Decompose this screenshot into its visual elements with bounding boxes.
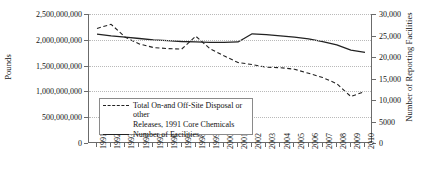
y-axis-left-tickmark [84, 143, 88, 144]
legend-item-label-line2: Releases, 1991 Core Chemicals [133, 120, 249, 129]
y-axis-right-title: Number of Reporting Facilities [404, 9, 414, 125]
dashed-line-icon [103, 101, 129, 110]
x-axis-tickmark [350, 143, 351, 147]
y-axis-right-tick-label: 30,000 [379, 10, 401, 19]
x-axis-tickmark [209, 143, 210, 147]
x-axis-tickmark [251, 143, 252, 147]
x-axis-tickmark [195, 143, 196, 147]
x-axis-tick-label: 2009 [353, 133, 362, 149]
x-axis-tickmark [322, 143, 323, 147]
legend-item-label: Number of Facilities [133, 130, 249, 139]
legend-item: Number of Facilities [103, 130, 249, 139]
x-axis-tickmark [181, 143, 182, 147]
y-axis-left-tickmark [84, 66, 88, 67]
x-axis-tick-label: 2006 [311, 133, 320, 149]
chart-figure: Pounds Number of Reporting Facilities 05… [0, 0, 429, 175]
y-axis-right-tickmark [372, 79, 376, 80]
y-axis-right-tickmark [372, 122, 376, 123]
x-axis-tickmark [138, 143, 139, 147]
y-axis-right-tickmark [372, 100, 376, 101]
x-axis-tickmark [223, 143, 224, 147]
y-axis-left-tick-label: 0 [0, 139, 82, 148]
series-line-disposal-releases [97, 24, 365, 96]
y-axis-left-tick-label: 500,000,000 [0, 113, 82, 122]
x-axis-tick-label: 2005 [297, 133, 306, 149]
x-axis-tick-label: 2003 [268, 133, 277, 149]
x-axis-tickmark [308, 143, 309, 147]
x-axis-tickmark [336, 143, 337, 147]
x-axis-tickmark [265, 143, 266, 147]
x-axis-tick-label: 2004 [283, 133, 292, 149]
y-axis-left-tickmark [84, 40, 88, 41]
y-axis-right-tick-label: 10,000 [379, 96, 401, 105]
x-axis-tickmark [96, 143, 97, 147]
x-axis-tick-label: 2010 [367, 133, 376, 149]
y-axis-right-tick-label: 15,000 [379, 74, 401, 83]
x-axis-tick-label: 2002 [254, 133, 263, 149]
x-axis-tickmark [152, 143, 153, 147]
y-axis-right-tickmark [372, 57, 376, 58]
y-axis-left-tickmark [84, 117, 88, 118]
y-axis-right-tick-label: 5000 [379, 117, 395, 126]
y-axis-right-tick-label: 0 [379, 139, 383, 148]
x-axis-tickmark [293, 143, 294, 147]
y-axis-left-tick-label: 2,000,000,000 [0, 35, 82, 44]
x-axis-tickmark [364, 143, 365, 147]
y-axis-left-tick-label: 1,500,000,000 [0, 61, 82, 70]
x-axis-tickmark [110, 143, 111, 147]
y-axis-left-tick-label: 1,000,000,000 [0, 87, 82, 96]
gridline [89, 91, 371, 92]
solid-line-icon [103, 130, 129, 139]
x-axis-tickmark [167, 143, 168, 147]
legend: Total On-and Off-Site Disposal or otherR… [99, 98, 253, 135]
x-axis-tick-label: 2007 [325, 133, 334, 149]
x-axis-tickmark [237, 143, 238, 147]
y-axis-left-tickmark [84, 14, 88, 15]
gridline [89, 66, 371, 67]
y-axis-right-tick-label: 20,000 [379, 53, 401, 62]
x-axis-tickmark [279, 143, 280, 147]
y-axis-right-tickmark [372, 14, 376, 15]
y-axis-right-tickmark [372, 36, 376, 37]
gridline [89, 14, 371, 15]
x-axis-tick-label: 2008 [339, 133, 348, 149]
y-axis-right-tick-label: 25,000 [379, 31, 401, 40]
x-axis-tickmark [124, 143, 125, 147]
y-axis-left-tickmark [84, 91, 88, 92]
y-axis-left-tick-label: 2,500,000,000 [0, 10, 82, 19]
legend-item: Total On-and Off-Site Disposal or otherR… [103, 101, 249, 129]
legend-item-label: Total On-and Off-Site Disposal or otherR… [133, 101, 249, 129]
gridline [89, 40, 371, 41]
